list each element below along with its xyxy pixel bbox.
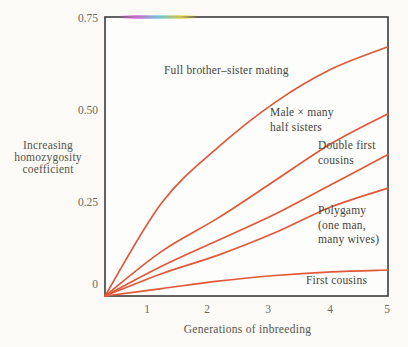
inbreeding-homozygosity-chart: Increasing homozygosity coefficient Gene… [0, 0, 408, 347]
y-tick-label-0.50: 0.50 [58, 102, 98, 118]
curve-label-full-brother-sister-mating: Full brother–sister mating [164, 63, 289, 78]
y-tick-label-0.75: 0.75 [58, 10, 98, 26]
x-tick-label-5: 5 [384, 302, 390, 316]
curve-label-first-cousins: First cousins [306, 273, 367, 288]
curve-label-polygamy: Polygamy (one man, many wives) [318, 203, 379, 247]
y-tick-label-0.25: 0.25 [58, 194, 98, 210]
x-tick-label-3: 3 [265, 302, 271, 316]
y-tick-label-0: 0 [58, 276, 98, 292]
x-tick-label-2: 2 [204, 302, 210, 316]
curve-label-male-x-many-half-sisters: Male × many half sisters [270, 105, 334, 134]
x-tick-label-1: 1 [144, 302, 150, 316]
x-tick-label-4: 4 [327, 302, 333, 316]
curve-label-double-first-cousins: Double first cousins [318, 138, 376, 167]
x-axis-title: Generations of inbreeding [140, 323, 355, 335]
y-axis-title: Increasing homozygosity coefficient [2, 139, 94, 175]
